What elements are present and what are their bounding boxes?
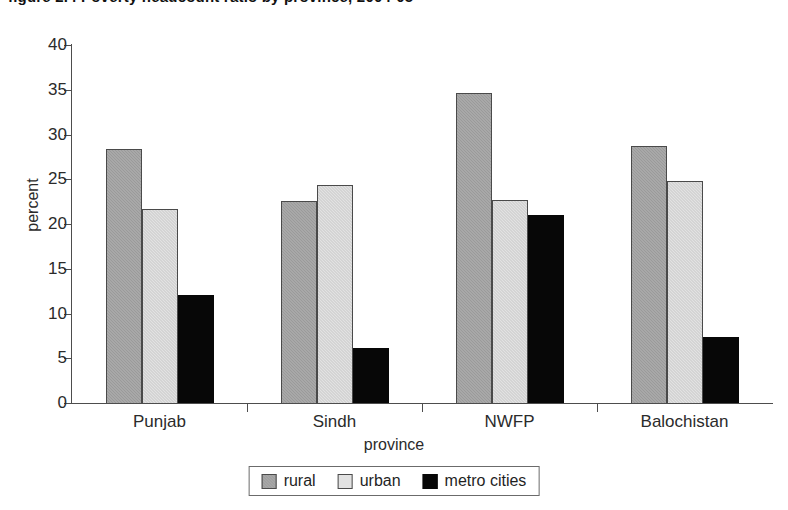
y-axis-title-container: percent (0, 160, 26, 250)
x-axis-tick-label-nwfp: NWFP (422, 412, 597, 432)
y-axis-tick-label: 40 (48, 35, 67, 55)
x-axis-tick-label-sindh: Sindh (247, 412, 422, 432)
x-axis-group-separator (422, 403, 423, 412)
bar-metro-cities-sindh[interactable] (353, 348, 389, 403)
bar-metro-cities-balochistan[interactable] (703, 337, 739, 403)
bar-urban-balochistan[interactable] (667, 181, 703, 403)
metro-cities-swatch (423, 474, 438, 489)
bar-metro-cities-nwfp[interactable] (528, 215, 564, 403)
legend-item-metro-cities[interactable]: metro cities (423, 472, 527, 490)
bar-rural-punjab[interactable] (106, 149, 142, 403)
bar-urban-punjab[interactable] (142, 209, 178, 403)
bar-rural-nwfp[interactable] (456, 93, 492, 403)
chart-title: figure 2.4 Poverty headcount ratio by pr… (8, 0, 413, 5)
bar-group (422, 45, 597, 403)
y-axis-tick-label: 15 (48, 259, 67, 279)
rural-swatch (262, 474, 277, 489)
bar-urban-nwfp[interactable] (492, 200, 528, 403)
chart-legend: ruralurbanmetro cities (249, 466, 540, 496)
y-axis-title: percent (24, 178, 42, 231)
urban-swatch (338, 474, 353, 489)
y-axis-tick-label: 10 (48, 304, 67, 324)
legend-item-rural[interactable]: rural (262, 472, 316, 490)
bar-group (247, 45, 422, 403)
legend-item-label: rural (284, 472, 316, 490)
bar-group (72, 45, 247, 403)
plot-area: 0510152025303540 (72, 45, 772, 403)
bar-urban-sindh[interactable] (317, 185, 353, 403)
bar-group-bars (422, 45, 597, 403)
bar-metro-cities-punjab[interactable] (178, 295, 214, 403)
x-axis-group-separator (597, 403, 598, 412)
x-axis-title: province (0, 436, 788, 454)
y-axis-tick-label: 25 (48, 169, 67, 189)
x-axis-tick-label-punjab: Punjab (72, 412, 247, 432)
bar-group-bars (247, 45, 422, 403)
y-axis-tick-label: 30 (48, 125, 67, 145)
legend-item-label: urban (360, 472, 401, 490)
bar-group (597, 45, 772, 403)
bar-group-bars (72, 45, 247, 403)
x-axis-group-separator (247, 403, 248, 412)
y-axis-tick-label: 20 (48, 214, 67, 234)
legend-item-label: metro cities (445, 472, 527, 490)
bar-rural-sindh[interactable] (281, 201, 317, 403)
bar-rural-balochistan[interactable] (631, 146, 667, 403)
legend-item-urban[interactable]: urban (338, 472, 401, 490)
y-axis-tick-label: 0 (58, 393, 67, 413)
x-axis-tick-label-balochistan: Balochistan (597, 412, 772, 432)
y-axis-tick-label: 5 (58, 348, 67, 368)
bar-group-bars (597, 45, 772, 403)
y-axis-tick-label: 35 (48, 80, 67, 100)
